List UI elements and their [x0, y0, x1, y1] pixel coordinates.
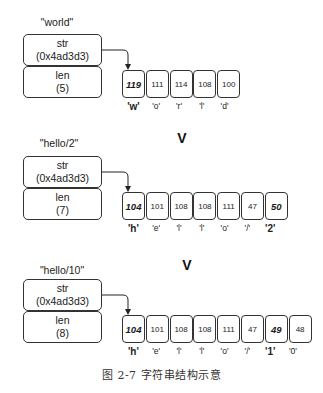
byte-cell: 108	[170, 315, 193, 343]
figure-caption: 图 2-7 字符串结构示意	[0, 366, 323, 382]
char-label: '1'	[259, 346, 282, 357]
char-label: 'l'	[190, 346, 213, 357]
byte-cell: 48	[289, 315, 312, 343]
char-label: '0'	[282, 346, 305, 357]
char-label: 'e'	[145, 346, 168, 357]
byte-array-3: 104 101 108 108 111 47 49 48	[122, 315, 312, 343]
char-label: 'h'	[122, 346, 145, 357]
char-labels-3: 'h' 'e' 'l' 'l' 'o' '/' '1' '0'	[122, 346, 304, 357]
byte-cell: 101	[146, 315, 169, 343]
char-label: 'o'	[213, 346, 236, 357]
char-label: 'l'	[168, 346, 191, 357]
byte-cell: 108	[193, 315, 216, 343]
char-label: '/'	[236, 346, 259, 357]
byte-cell: 104	[122, 315, 145, 343]
byte-cell: 47	[241, 315, 264, 343]
byte-cell: 111	[217, 315, 240, 343]
byte-cell: 49	[265, 315, 288, 343]
